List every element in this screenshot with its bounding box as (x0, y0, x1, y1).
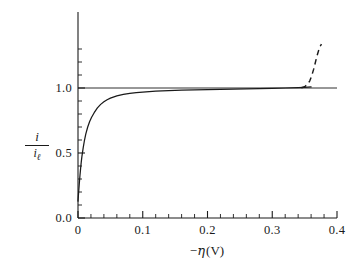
y-axis-tick-label: 1.0 (42, 81, 72, 96)
y-axis-major-ticks (78, 88, 85, 218)
x-axis-tick-label: 0.2 (199, 223, 216, 238)
figure-container: 00.10.20.30.4 0.00.51.0 −η (V) i iℓ (0, 0, 360, 275)
polarization-curve-solid (78, 87, 311, 201)
x-axis-title-units: (V) (206, 243, 224, 258)
x-axis-tick-label: 0 (75, 223, 82, 238)
polarization-curve-dashed (301, 44, 321, 88)
y-axis-tick-label: 0.0 (42, 211, 72, 226)
x-axis-title-symbol: η (197, 243, 205, 258)
x-axis-title: −η (V) (190, 243, 224, 259)
plot-canvas (0, 0, 360, 275)
x-axis-tick-label: 0.3 (264, 223, 281, 238)
y-axis-title-numerator: i (22, 130, 52, 145)
x-axis-tick-label: 0.4 (329, 223, 346, 238)
y-axis-title-denominator: iℓ (22, 146, 52, 163)
axis-lines (78, 12, 337, 218)
y-axis-denominator-subscript: ℓ (37, 152, 41, 162)
x-axis-tick-label: 0.1 (135, 223, 152, 238)
y-axis-title: i iℓ (22, 130, 52, 162)
